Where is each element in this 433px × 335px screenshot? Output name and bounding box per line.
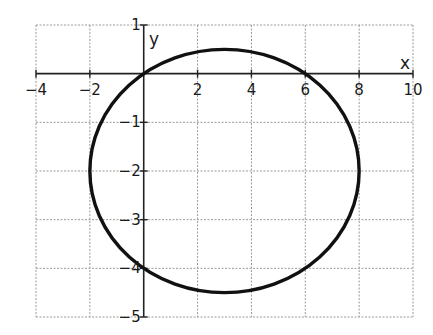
y-axis-label: y [149, 29, 159, 49]
x-tick-label: −2 [79, 81, 101, 99]
x-tick-label: 10 [403, 81, 422, 99]
y-tick-label: −1 [119, 113, 141, 131]
x-tick-label: −4 [25, 81, 47, 99]
x-tick-label: 2 [193, 81, 203, 99]
y-tick-label: 1 [131, 16, 141, 34]
ellipse-chart: −4−22468101−1−2−3−4−5 x y [0, 0, 433, 335]
x-tick-label: 6 [301, 81, 311, 99]
y-tick-label: −2 [119, 162, 141, 180]
y-tick-label: −4 [119, 259, 141, 277]
x-axis-label: x [400, 53, 410, 73]
x-tick-label: 8 [354, 81, 364, 99]
y-tick-label: −3 [119, 211, 141, 229]
grid-lines [36, 25, 413, 317]
y-tick-label: −5 [119, 308, 141, 326]
x-tick-label: 4 [247, 81, 257, 99]
